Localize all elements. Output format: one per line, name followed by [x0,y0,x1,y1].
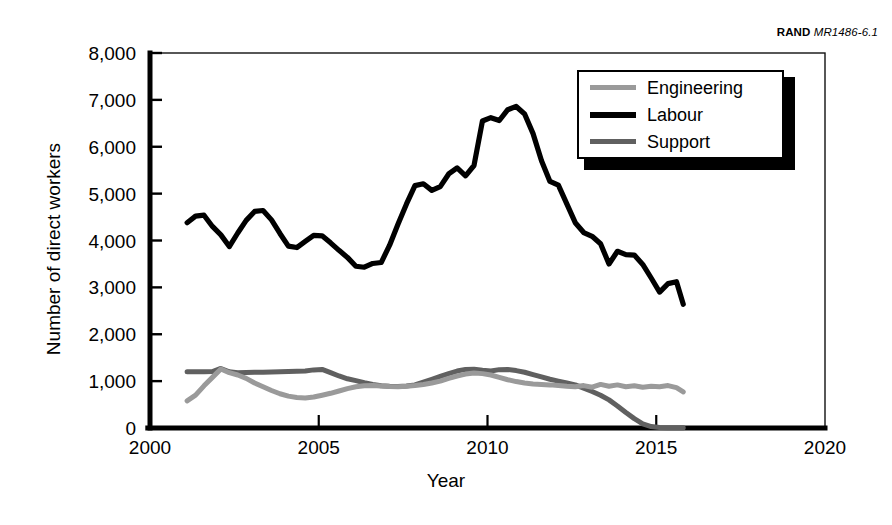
legend-swatch-engineering [590,85,636,90]
legend-box: Engineering Labour Support [577,70,784,159]
legend-swatch-support [590,139,636,144]
legend-label-support: Support [647,133,710,151]
legend-item-labour[interactable]: Labour [579,101,782,128]
x-axis-title: Year [0,470,892,492]
y-tick-label: 7,000 [88,90,136,111]
x-tick-label: 2020 [804,437,846,458]
y-tick-label: 0 [125,418,136,439]
x-tick-label: 2000 [129,437,171,458]
legend-item-support[interactable]: Support [579,128,782,155]
series-line-support [187,368,683,427]
chart-legend: Engineering Labour Support [577,70,795,170]
y-tick-label: 6,000 [88,137,136,158]
y-axis-title: Number of direct workers [43,99,65,399]
y-tick-label: 3,000 [88,277,136,298]
x-tick-label: 2005 [298,437,340,458]
x-tick-label: 2015 [635,437,677,458]
chart-figure: RAND MR1486-6.1 01,0002,0003,0004,0005,0… [0,0,892,525]
legend-item-engineering[interactable]: Engineering [579,74,782,101]
legend-label-labour: Labour [647,106,703,124]
y-tick-label: 4,000 [88,231,136,252]
legend-swatch-labour [590,112,636,118]
y-tick-label: 1,000 [88,371,136,392]
x-tick-label: 2010 [466,437,508,458]
y-tick-label: 8,000 [88,43,136,64]
legend-label-engineering: Engineering [647,79,743,97]
y-tick-label: 2,000 [88,324,136,345]
y-tick-label: 5,000 [88,184,136,205]
